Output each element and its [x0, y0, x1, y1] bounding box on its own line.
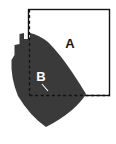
geometry-diagram: A B: [0, 0, 116, 144]
region-label-b: B: [36, 69, 45, 84]
figure-canvas: A B: [0, 0, 116, 144]
region-label-a: A: [65, 36, 75, 51]
